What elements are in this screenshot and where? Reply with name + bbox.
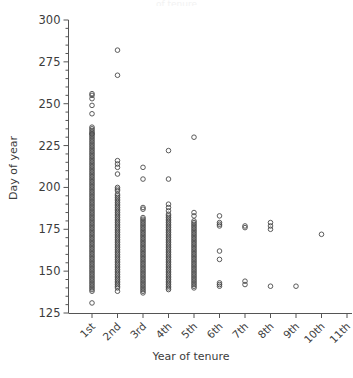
y-tick-label: 200 — [39, 180, 61, 194]
data-point — [166, 177, 171, 182]
x-tick-label: 8th — [255, 320, 276, 341]
y-tick-label: 175 — [39, 222, 61, 236]
data-point — [115, 165, 120, 170]
data-point — [243, 282, 248, 287]
data-point — [217, 214, 222, 219]
x-tick-label: 10th — [301, 320, 327, 346]
data-point — [141, 165, 146, 170]
data-point — [90, 103, 95, 108]
data-point — [90, 96, 95, 101]
data-point — [115, 73, 120, 78]
data-point — [166, 148, 171, 153]
x-tick-label: 1st — [77, 320, 97, 340]
x-tick-label: 9th — [281, 320, 302, 341]
data-point — [268, 227, 273, 232]
y-axis-label: Day of year — [7, 136, 20, 200]
data-point — [115, 172, 120, 177]
y-tick-label: 150 — [39, 264, 61, 278]
y-tick-label: 125 — [39, 306, 61, 320]
y-axis-major-ticks — [64, 20, 69, 313]
data-point — [115, 48, 120, 53]
y-tick-label: 225 — [39, 139, 61, 153]
x-tick-label: 3rd — [128, 320, 149, 341]
data-point — [268, 284, 273, 289]
x-tick-label: 2nd — [100, 320, 123, 343]
data-point — [115, 289, 120, 294]
scatter-plot: 125150175200225250275300 Day of year 1st… — [0, 0, 353, 378]
y-axis: 125150175200225250275300 Day of year — [7, 13, 69, 320]
data-point — [192, 214, 197, 219]
y-tick-label: 250 — [39, 97, 61, 111]
data-point — [217, 257, 222, 262]
x-axis: 1st2nd3rd4th5th6th7th8th9th10th11th Year… — [69, 313, 353, 363]
data-point — [192, 135, 197, 140]
data-point — [217, 249, 222, 254]
x-tick-label: 11th — [327, 320, 353, 346]
data-points-layer — [90, 48, 324, 305]
data-point — [90, 111, 95, 116]
x-tick-label: 5th — [179, 320, 200, 341]
x-tick-label: 7th — [230, 320, 251, 341]
data-point — [141, 177, 146, 182]
data-point — [319, 232, 324, 237]
x-tick-label: 4th — [153, 320, 174, 341]
x-axis-label: Year of tenure — [152, 350, 230, 363]
data-point — [294, 284, 299, 289]
y-tick-label: 275 — [39, 55, 61, 69]
y-tick-label: 300 — [39, 13, 61, 27]
data-point — [90, 301, 95, 306]
x-axis-tick-labels: 1st2nd3rd4th5th6th7th8th9th10th11th — [77, 320, 352, 346]
y-axis-tick-labels: 125150175200225250275300 — [39, 13, 61, 320]
x-tick-label: 6th — [204, 320, 225, 341]
